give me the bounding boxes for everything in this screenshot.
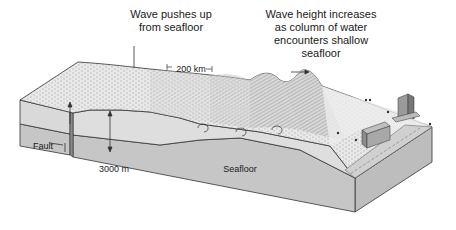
wave-pushes-up-label: Wave pushes up from seafloor <box>116 8 226 34</box>
seafloor-label: Seafloor <box>210 164 270 174</box>
wave-pushes-up-line2: from seafloor <box>116 21 226 34</box>
wavelength-label: 200 km <box>166 64 216 74</box>
building-tall <box>392 94 420 122</box>
fault-label: Fault <box>33 141 63 151</box>
wave-crest-band-3 <box>210 74 250 128</box>
wave-pushes-up-line1: Wave pushes up <box>116 8 226 21</box>
wave-height-label: Wave height increases as column of water… <box>256 8 386 60</box>
fault-uplift-strip <box>70 112 73 157</box>
wave-height-line1: Wave height increases <box>256 8 386 21</box>
wave-height-line3: encounters shallow <box>256 34 386 47</box>
depth-label: 3000 m <box>94 164 134 174</box>
tsunami-block-diagram <box>0 0 456 230</box>
wave-height-line2: as column of water <box>256 21 386 34</box>
wave-height-line4: seafloor <box>256 47 386 60</box>
